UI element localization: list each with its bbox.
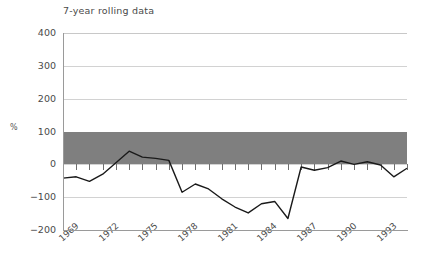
- chart-title: 7-year rolling data: [63, 5, 154, 16]
- y-axis-tick-label: 0: [10, 158, 56, 169]
- y-axis-tick-label: 100: [10, 126, 56, 137]
- data-series-line: [63, 33, 407, 230]
- y-axis-tick-label: 200: [10, 93, 56, 104]
- y-axis-tick-label: −200: [10, 224, 56, 235]
- x-axis-tick: [407, 164, 408, 170]
- chart-container: 7-year rolling data % −200−1000100200300…: [0, 0, 425, 278]
- y-axis-tick-label: −100: [10, 191, 56, 202]
- y-axis-tick-label: 400: [10, 27, 56, 38]
- y-axis-tick-label: 300: [10, 60, 56, 71]
